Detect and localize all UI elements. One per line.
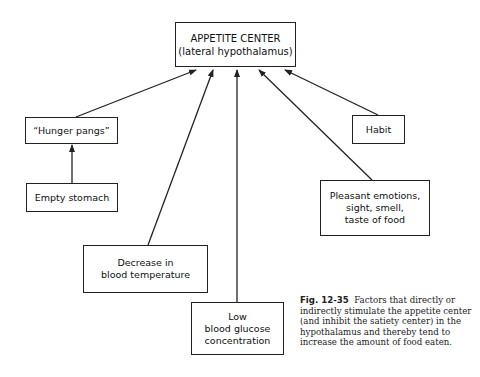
figure-number: Fig. 12-35	[300, 295, 349, 305]
hunger-pangs-box: “Hunger pangs”	[25, 117, 118, 144]
emotions-line3: taste of food	[345, 214, 405, 226]
emotions-line2: sight, smell,	[346, 202, 404, 214]
figure-caption: Fig. 12-35 Factors that directly or indi…	[300, 295, 480, 348]
hunger-pangs-label: “Hunger pangs”	[33, 125, 109, 137]
habit-box: Habit	[352, 115, 405, 144]
blood-temp-line1: Decrease in	[117, 257, 173, 269]
glucose-line2: blood glucose	[205, 323, 271, 335]
center-title: APPETITE CENTER	[190, 32, 280, 45]
arrow-temp-to-center	[148, 70, 213, 245]
appetite-center-box: APPETITE CENTER (lateral hypothalamus)	[175, 22, 296, 67]
glucose-line3: concentration	[205, 335, 271, 347]
blood-temperature-box: Decrease in blood temperature	[83, 245, 208, 293]
glucose-line1: Low	[228, 311, 247, 323]
arrow-hunger-to-center	[76, 70, 196, 117]
center-subtitle: (lateral hypothalamus)	[178, 45, 292, 58]
pleasant-emotions-box: Pleasant emotions, sight, smell, taste o…	[320, 180, 430, 236]
empty-stomach-label: Empty stomach	[35, 192, 109, 204]
empty-stomach-box: Empty stomach	[26, 183, 118, 212]
emotions-line1: Pleasant emotions,	[330, 190, 421, 202]
habit-label: Habit	[366, 124, 391, 136]
blood-temp-line2: blood temperature	[101, 269, 190, 281]
blood-glucose-box: Low blood glucose concentration	[191, 302, 284, 355]
